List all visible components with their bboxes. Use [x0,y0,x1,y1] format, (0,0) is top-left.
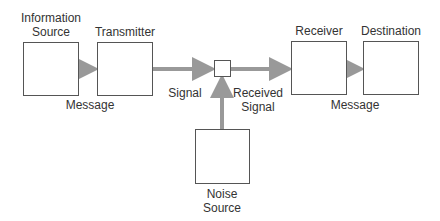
signal-label: Signal [160,86,210,100]
received-signal-label: Received Signal [228,86,288,114]
information-source-label: Information Source [10,11,92,39]
receiver-label: Receiver [284,24,354,38]
message-label-2: Message [325,98,385,112]
destination-box [363,41,419,95]
message-label-1: Message [60,98,120,112]
destination-label: Destination [351,24,431,38]
mixer-box [214,60,231,77]
transmitter-box [97,42,153,96]
communication-diagram: Information Source Transmitter Receiver … [0,0,440,221]
noise-source-box [195,129,250,184]
transmitter-label: Transmitter [90,25,160,39]
information-source-box [23,42,79,96]
noise-source-label: Noise Source [187,187,257,215]
receiver-box [291,41,347,95]
